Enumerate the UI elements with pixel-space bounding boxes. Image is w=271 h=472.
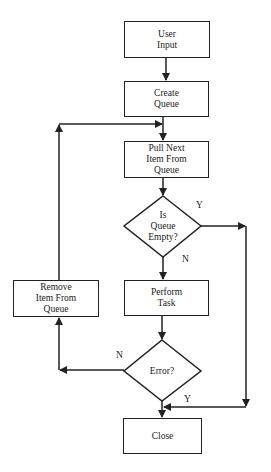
process-remove-item[interactable]: Remove Item From Queue (13, 280, 99, 317)
edge-label-error-no: N (116, 350, 123, 360)
process-create-queue[interactable]: Create Queue (124, 81, 209, 117)
process-perform-task[interactable]: Perform Task (124, 280, 209, 316)
edge-label-empty-yes: Y (196, 200, 203, 210)
edge-label-empty-no: N (182, 254, 189, 264)
decision-error[interactable]: Error? (130, 364, 194, 378)
decision-is-queue-empty[interactable]: Is Queue Empty? (130, 206, 196, 246)
process-pull-next-item[interactable]: Pull Next Item From Queue (124, 141, 209, 178)
process-user-input[interactable]: User Input (124, 21, 210, 58)
flowchart-canvas: User Input Create Queue Pull Next Item F… (0, 0, 271, 472)
process-close[interactable]: Close (123, 418, 202, 454)
edge-label-error-yes: Y (184, 394, 191, 404)
